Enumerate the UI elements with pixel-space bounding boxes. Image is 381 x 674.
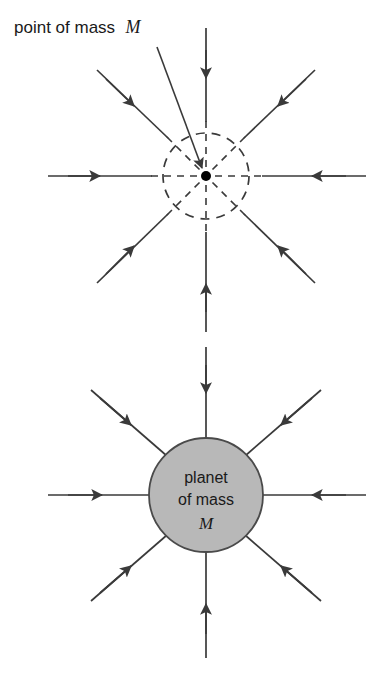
point-mass-label-symbol: M: [125, 17, 142, 37]
dashed-segment-northeast: [206, 137, 245, 176]
field-arrow-northeast: [278, 79, 306, 106]
field-arrow-southeast: [278, 246, 306, 274]
field-arrow-northwest: [106, 79, 134, 106]
gravitational-field-figure: point of mass M: [0, 0, 381, 674]
planet-label-line-1: planet: [184, 469, 228, 486]
point-mass-label: point of mass M: [14, 17, 142, 37]
field-arrow-southwest: [106, 246, 134, 274]
planet-label-line-2: of mass: [178, 491, 234, 508]
point-mass-diagram: point of mass M: [14, 17, 366, 332]
dashed-segment-northwest: [167, 137, 206, 176]
planet-label-symbol: M: [198, 514, 214, 533]
planet-field-arrow-southeast: [281, 566, 312, 593]
planet-diagram: planet of mass M: [48, 347, 366, 658]
dashed-segment-southwest: [167, 176, 206, 215]
point-mass-label-text: point of mass: [14, 18, 115, 37]
planet-field-arrow-northeast: [281, 398, 312, 425]
dashed-segment-southeast: [206, 176, 245, 215]
planet-field-arrow-northwest: [100, 398, 131, 425]
point-mass-dot: [201, 171, 211, 181]
planet-field-arrow-southwest: [100, 566, 131, 593]
